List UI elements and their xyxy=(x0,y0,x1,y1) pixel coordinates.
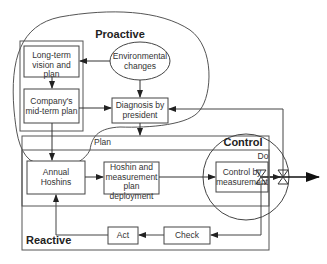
annual-node: Annual Hoshins xyxy=(27,168,85,187)
control-by-node: Control by measurement xyxy=(216,168,268,187)
long-term-node: Long-term vision and plan xyxy=(24,51,79,80)
diagnosis-node: Diagnosis by president xyxy=(114,101,166,120)
check-node: Check xyxy=(164,231,210,241)
diagram-canvas xyxy=(0,0,327,264)
environmental-node: Environmental changes xyxy=(112,52,168,71)
control-label: Control xyxy=(218,138,268,148)
cropped-caption xyxy=(0,258,327,264)
proactive-label: Proactive xyxy=(90,30,150,40)
reactive-label: Reactive xyxy=(26,236,86,246)
do-label: Do xyxy=(256,152,270,162)
act-node: Act xyxy=(108,231,138,241)
plan-label: Plan xyxy=(94,138,124,148)
deployment-node: Hoshin and measurement plan deployment xyxy=(104,163,159,201)
mid-term-node: Company's mid-term plan xyxy=(24,97,79,116)
